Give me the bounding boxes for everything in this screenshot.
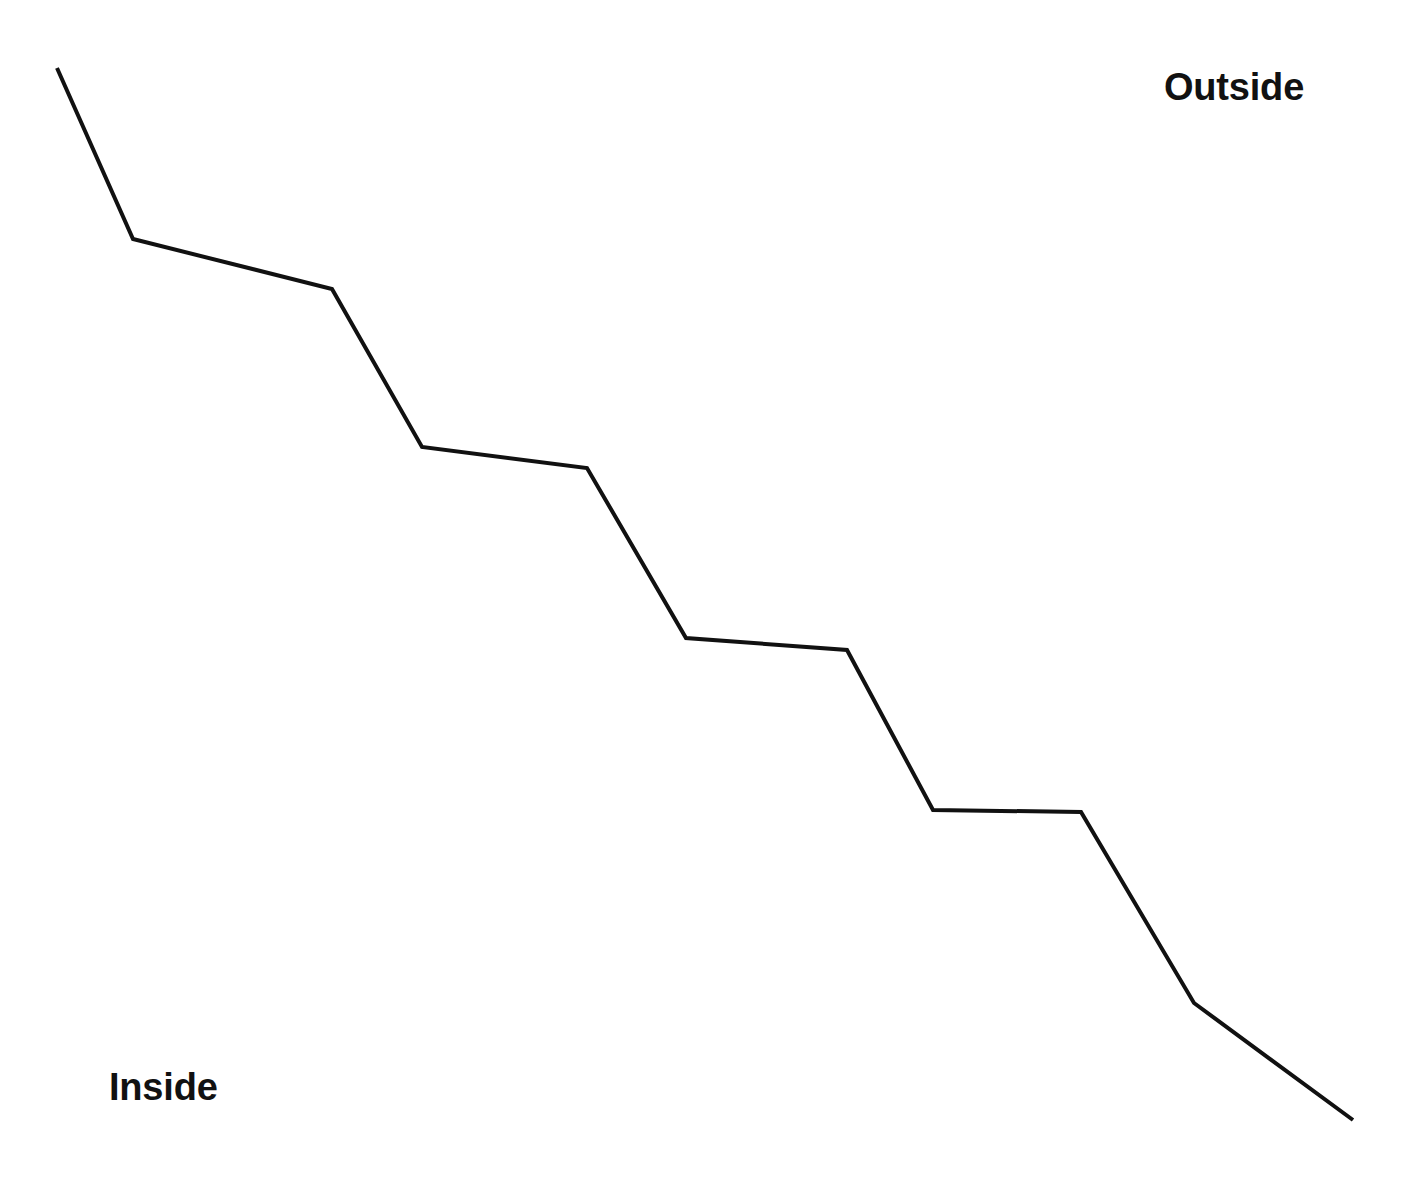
diagram-canvas: Outside Inside bbox=[0, 0, 1402, 1179]
stepped-boundary-line bbox=[57, 68, 1353, 1120]
region-label-inside: Inside bbox=[109, 1068, 218, 1106]
region-label-outside: Outside bbox=[1164, 68, 1304, 106]
boundary-diagram-svg bbox=[0, 0, 1402, 1179]
